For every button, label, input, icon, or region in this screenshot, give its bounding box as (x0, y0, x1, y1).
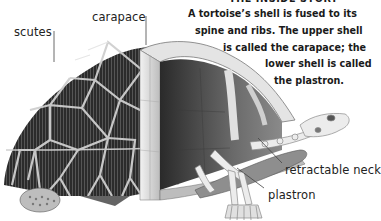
diagram-heading: THE INSIDE STORY (229, 0, 338, 4)
caption-line-3: is called the carapace; the (223, 40, 366, 57)
caption-line-2: spine and ribs. The upper shell (195, 23, 363, 40)
rear-foot (20, 188, 60, 212)
caption-line-5: the plastron. (274, 73, 344, 90)
caption-line-1: A tortoise’s shell is fused to its (188, 6, 357, 23)
carapace-exterior (4, 42, 160, 196)
label-carapace: carapace (92, 11, 146, 24)
caption-line-4: lower shell is called (265, 56, 372, 73)
label-scutes: scutes (14, 26, 52, 39)
label-retractable-neck: retractable neck (285, 164, 381, 177)
label-plastron: plastron (268, 189, 316, 202)
